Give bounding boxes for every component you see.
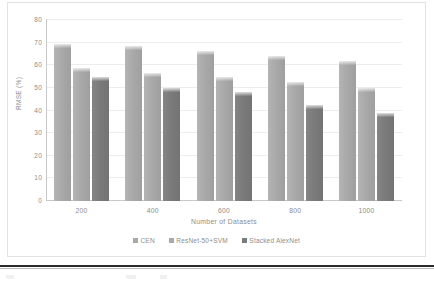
bar: [358, 88, 375, 201]
legend-label: CEN: [140, 237, 154, 244]
y-tick-label: 30: [34, 129, 42, 136]
y-tick-label: 60: [34, 61, 42, 68]
legend-item[interactable]: CEN: [133, 237, 155, 244]
x-tick-label: 800: [289, 207, 301, 214]
page-divider-rule-shadow: [0, 268, 434, 269]
bar: [287, 82, 304, 201]
caption-fragment-c: [160, 275, 167, 279]
y-tick-label: 20: [34, 151, 42, 158]
y-tick-label: 50: [34, 83, 42, 90]
bar: [268, 56, 285, 201]
bar: [306, 105, 323, 201]
bar: [144, 73, 161, 201]
x-tick-label: 400: [147, 207, 159, 214]
legend-label: Stacked AlexNet: [249, 237, 300, 244]
chart-legend: CENResNet-50+SVMStacked AlexNet: [7, 237, 426, 244]
bar: [339, 61, 356, 201]
legend-swatch-icon: [169, 238, 174, 243]
y-tick-label: 40: [34, 106, 42, 113]
bar: [54, 44, 71, 201]
bar-group: 200: [46, 19, 117, 201]
bar: [163, 88, 180, 201]
caption-fragment-b: [126, 275, 136, 279]
x-tick-label: 1000: [358, 207, 374, 214]
x-tick-label: 600: [218, 207, 230, 214]
bar-group: 400: [117, 19, 188, 201]
bar: [73, 68, 90, 201]
y-tick-label: 0: [38, 197, 42, 204]
bar-group: 1000: [331, 19, 402, 201]
bar: [216, 77, 233, 201]
bar: [235, 92, 252, 201]
x-tick-label: 200: [76, 207, 88, 214]
page-divider-rule: [0, 265, 434, 267]
bar-group: 600: [188, 19, 259, 201]
bar-group: 800: [260, 19, 331, 201]
bars-layer: 2004006008001000: [46, 19, 402, 201]
caption-fragment-a: [6, 275, 14, 279]
legend-swatch-icon: [133, 238, 138, 243]
legend-label: ResNet-50+SVM: [176, 237, 228, 244]
legend-swatch-icon: [242, 238, 247, 243]
y-tick-label: 70: [34, 38, 42, 45]
x-axis-title: Number of Datasets: [46, 218, 402, 225]
y-tick-label: 10: [34, 174, 42, 181]
bar: [377, 113, 394, 201]
legend-item[interactable]: ResNet-50+SVM: [169, 237, 228, 244]
figure-container: RMSE (%) 01020304050607080 2004006008001…: [0, 0, 434, 283]
y-tick-label: 80: [34, 16, 42, 23]
bar: [125, 46, 142, 201]
bar: [197, 51, 214, 201]
y-axis-title: RMSE (%): [15, 77, 22, 110]
legend-item[interactable]: Stacked AlexNet: [242, 237, 300, 244]
bar: [92, 77, 109, 201]
